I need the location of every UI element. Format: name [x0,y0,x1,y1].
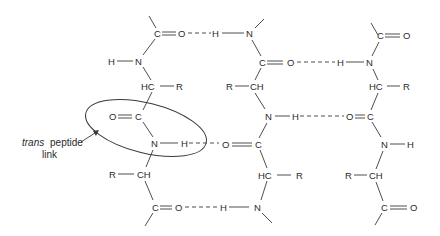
middle-chain: H N C O R CH N H O C HC R H N [212,19,303,223]
atom-c: C [154,28,161,39]
atom-o: O [175,202,182,213]
atom-h: H [108,56,115,67]
atom-r: R [403,81,410,92]
atom-ch: CH [369,170,383,181]
beta-sheet-diagram: C O H N HC R O C N H R CH C O [0,0,440,236]
atom-o: O [346,111,353,122]
atom-h: H [337,57,344,68]
atom-h: H [212,28,219,39]
peptide-link-ellipse [80,89,212,168]
atom-c: C [367,111,374,122]
atom-h: H [407,139,414,150]
atom-c: C [381,202,388,213]
atom-n: N [366,57,373,68]
atom-h: H [292,111,299,122]
atom-n: N [246,28,253,39]
atom-r: R [345,170,352,181]
right-chain: C O H N HC R O C N H R CH C O [337,23,417,225]
atom-n: N [254,202,261,213]
annotation-line1: trans peptide [22,137,83,148]
left-chain: C O H N HC R O C N H R CH C O [108,16,188,226]
atom-o: O [410,202,417,213]
atom-c: C [377,30,384,41]
atom-o: O [222,139,229,150]
atom-c: C [259,57,266,68]
atom-c: C [255,139,262,150]
atom-h: H [220,202,227,213]
atom-n: N [135,56,142,67]
atom-r: R [296,170,303,181]
atom-n: N [265,111,272,122]
annotation-line2: link [42,149,58,160]
atom-h: H [181,138,188,149]
atom-c: C [152,202,159,213]
atom-n: N [151,138,158,149]
atom-o: O [403,30,410,41]
atom-hc: HC [258,170,272,181]
atom-r: R [109,169,116,180]
atom-o: O [109,111,116,122]
atom-r: R [176,81,183,92]
trans-peptide-annotation: trans peptide link [22,89,212,168]
atom-hc: HC [141,81,155,92]
atom-o: O [287,57,294,68]
atom-ch: CH [137,169,151,180]
atom-n: N [381,139,388,150]
atom-r: R [226,81,233,92]
atom-c: C [135,111,142,122]
atom-o: O [178,28,185,39]
atom-hc: HC [369,81,383,92]
atom-ch: CH [250,81,264,92]
